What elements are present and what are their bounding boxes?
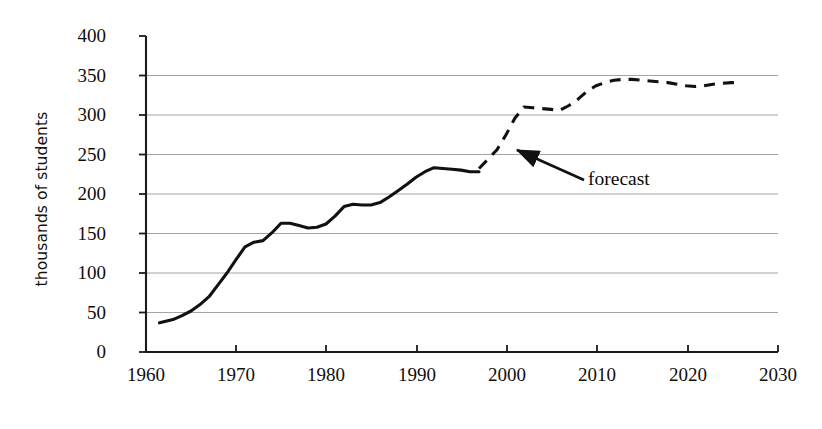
annotation-label-forecast: forecast — [588, 168, 650, 190]
series-line-forecast — [479, 79, 740, 168]
x-tick-label-1960: 1960 — [127, 364, 165, 386]
x-tick-label-2010: 2010 — [578, 364, 616, 386]
x-tick-label-2000: 2000 — [488, 364, 526, 386]
series-line-actual — [160, 168, 480, 323]
y-axis-title: thousands of students — [33, 69, 51, 329]
line-chart-figure: thousands of students 0 50 100 150 200 2… — [0, 0, 822, 429]
y-tick-label-400: 400 — [60, 25, 106, 47]
gridlines — [146, 76, 778, 313]
y-tick-label-150: 150 — [60, 223, 106, 245]
y-tick-label-250: 250 — [60, 144, 106, 166]
x-tick-label-2020: 2020 — [669, 364, 707, 386]
y-tick-label-50: 50 — [60, 302, 106, 324]
y-tick-label-300: 300 — [60, 104, 106, 126]
x-tick-label-2030: 2030 — [759, 364, 797, 386]
y-tick-label-100: 100 — [60, 262, 106, 284]
x-tick-label-1980: 1980 — [307, 364, 345, 386]
y-tick-label-200: 200 — [60, 183, 106, 205]
x-tick-label-1970: 1970 — [217, 364, 255, 386]
y-tick-label-0: 0 — [60, 341, 106, 363]
y-tick-label-350: 350 — [60, 65, 106, 87]
x-tick-label-1990: 1990 — [398, 364, 436, 386]
